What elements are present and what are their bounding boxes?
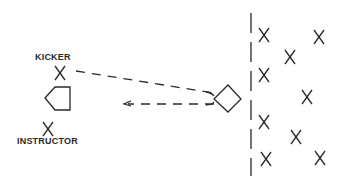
fielder-marker-icon xyxy=(259,68,269,82)
fielder-marker-icon xyxy=(314,30,324,44)
field-diagram xyxy=(0,0,343,183)
fielder-marker-icon xyxy=(291,130,301,144)
fielder-marker-icon xyxy=(261,152,271,166)
fielder-marker-icon xyxy=(259,115,269,129)
fielder-marker-icon xyxy=(315,151,325,165)
instructor-marker-icon xyxy=(43,122,53,136)
home-plate-icon xyxy=(45,87,70,110)
kick-path-line xyxy=(76,71,214,93)
fielder-marker-icon xyxy=(285,50,295,64)
kicker-marker-icon xyxy=(55,66,65,80)
ball-diamond-icon xyxy=(214,85,241,112)
fielder-marker-icon xyxy=(259,28,269,42)
fielder-marker-icon xyxy=(302,90,312,104)
